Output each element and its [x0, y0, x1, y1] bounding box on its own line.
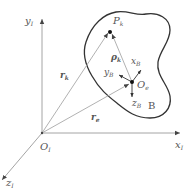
r-k-label: rk [60, 70, 69, 81]
inertial-origin-label: OI [40, 141, 51, 153]
y-inertial-label: yI [24, 15, 34, 27]
point-p-k [108, 30, 112, 34]
y-body-label: yB [103, 67, 114, 78]
rigid-body-frame-diagram: yI xI zI OI Pk Oe rk re ρk xB yB zB B [0, 0, 190, 195]
inertial-origin-point [41, 132, 43, 134]
body-origin-point [130, 80, 134, 84]
y-body-axis [119, 75, 132, 82]
body-origin-label: Oe [137, 79, 149, 91]
z-body-label: zB [131, 98, 142, 109]
z-inertial-label: zI [5, 177, 14, 189]
z-inertial-axis [2, 133, 42, 180]
x-inertial-label: xI [175, 139, 184, 151]
r-e-label: re [91, 112, 100, 123]
body-name-label: B [148, 100, 155, 111]
rho-k-label: ρk [110, 52, 121, 63]
point-p-k-label: Pk [112, 15, 124, 27]
x-body-label: xB [131, 56, 141, 67]
r-e-vector [42, 84, 129, 133]
